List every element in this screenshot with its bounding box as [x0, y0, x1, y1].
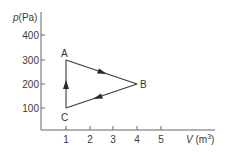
x-ticks: 1 2 3 4 5 — [63, 126, 164, 145]
x-tick-1: 1 — [63, 134, 69, 145]
arrow-a-to-b-icon — [97, 69, 107, 75]
point-label-c: C — [61, 112, 68, 123]
thermo-cycle — [66, 60, 137, 108]
point-label-a: A — [61, 48, 68, 59]
x-tick-3: 3 — [110, 134, 116, 145]
y-tick-100: 100 — [22, 103, 39, 114]
x-tick-4: 4 — [134, 134, 140, 145]
x-tick-5: 5 — [158, 134, 164, 145]
pv-diagram: p(Pa) 400 300 200 100 1 2 3 4 5 V (m3) — [0, 0, 228, 154]
y-tick-400: 400 — [22, 30, 39, 41]
y-ticks: 400 300 200 100 — [22, 30, 45, 114]
y-axis-label: p(Pa) — [12, 12, 37, 23]
arrow-b-to-c-icon — [93, 94, 103, 100]
x-tick-2: 2 — [87, 134, 93, 145]
arrow-c-to-a-icon — [63, 80, 69, 89]
y-tick-200: 200 — [22, 79, 39, 90]
x-axis-label: V (m3) — [186, 133, 214, 145]
y-tick-300: 300 — [22, 55, 39, 66]
point-label-b: B — [140, 79, 147, 90]
